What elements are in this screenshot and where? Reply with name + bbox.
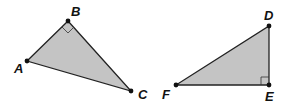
label-b: B [71, 5, 80, 18]
point-c [129, 89, 134, 94]
label-e: E [265, 90, 274, 103]
label-a: A [14, 62, 23, 75]
label-d: D [264, 9, 273, 22]
point-d [267, 24, 272, 29]
triangle-def [176, 26, 269, 85]
label-c: C [138, 88, 147, 101]
point-b [66, 19, 71, 24]
triangle-abc [27, 21, 131, 91]
point-f [174, 83, 179, 88]
point-e [267, 83, 272, 88]
label-f: F [162, 88, 170, 101]
point-a [25, 59, 30, 64]
